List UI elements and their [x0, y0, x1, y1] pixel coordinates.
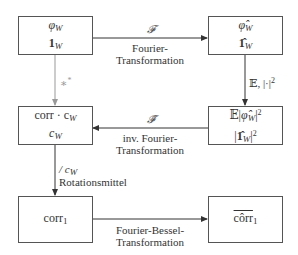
node-line: corr1 — [44, 211, 68, 229]
expectation-text: 𝔼, |·| — [249, 77, 271, 89]
node-power-spectrum: 𝔼|φ̂W|2 |1̂W|2 — [208, 106, 283, 145]
subscript: 1 — [253, 216, 258, 226]
label-fourier-bessel-line2: Transformation — [95, 236, 205, 249]
subscript: W — [69, 113, 77, 123]
division-symbol: / c — [59, 163, 70, 175]
label-fourier-symbol: 𝓕 — [142, 23, 160, 36]
label-fourier-line2: Transformation — [100, 54, 200, 67]
subscript: W — [245, 41, 253, 51]
node-line: φ̂W — [238, 18, 252, 36]
node-line: 𝔼|φ̂W|2 — [229, 105, 261, 126]
label-inverse-fourier-symbol: 𝓕̃ — [142, 113, 160, 126]
node-phi-hat-w: φ̂W 1̂W — [208, 16, 283, 55]
node-line: cW — [49, 126, 62, 144]
node-line: côrr1 — [234, 211, 258, 229]
symbol-expectation: 𝔼| — [229, 108, 241, 122]
subscript: W — [54, 131, 62, 141]
node-phi-w: φW 1W — [18, 16, 93, 55]
node-line: 1̂W — [239, 36, 253, 54]
superscript: 2 — [258, 108, 262, 117]
node-line: |1̂W|2 — [234, 126, 256, 147]
symbol-corr-times-c: corr · c — [34, 108, 69, 122]
node-line: corr · cW — [34, 108, 76, 126]
node-corr1-hat: côrr1 — [208, 196, 283, 243]
label-expectation: 𝔼, |·|2 — [249, 74, 275, 90]
subscript: W — [245, 23, 253, 33]
node-line: 1W — [49, 36, 63, 54]
label-inverse-fourier-line2: Transformation — [100, 144, 200, 157]
label-convolution: ∗* — [60, 74, 71, 90]
node-corr-cw: corr · cW cW — [18, 106, 93, 145]
subscript: W — [55, 23, 63, 33]
symbol-corr-hat: côrr — [234, 211, 253, 225]
node-corr1: corr1 — [18, 196, 93, 243]
symbol-phi-hat: φ̂ — [241, 108, 248, 122]
superscript: 2 — [253, 129, 257, 138]
subscript: W — [55, 41, 63, 51]
node-line: φW — [48, 18, 62, 36]
subscript: 1 — [63, 216, 68, 226]
superscript: 2 — [271, 76, 275, 85]
symbol-corr: corr — [44, 211, 63, 225]
label-rotation-average: Rotationsmittel — [59, 176, 127, 189]
superscript: * — [67, 76, 71, 85]
